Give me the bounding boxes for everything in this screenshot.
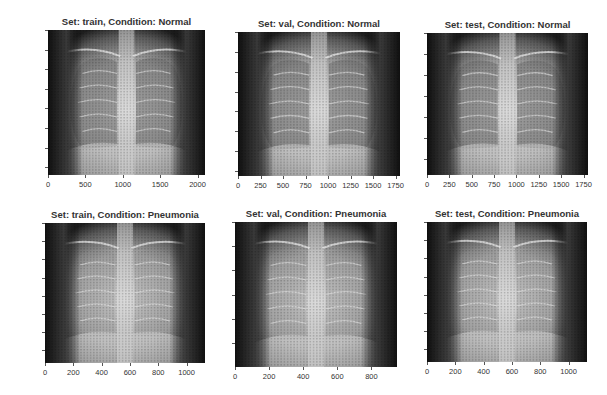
x-tick-mark (45, 363, 46, 366)
x-tick-label: 500 (79, 180, 92, 189)
subplot-title: Set: val, Condition: Pneumonia (246, 208, 386, 219)
x-tick-mark (396, 176, 397, 179)
y-tick-mark (424, 313, 427, 314)
x-tick-mark (198, 175, 199, 178)
x-tick-label: 750 (299, 181, 312, 190)
x-tick-label: 600 (506, 367, 519, 376)
x-tick-label: 1750 (387, 181, 404, 190)
x-tick-label: 400 (95, 368, 108, 377)
x-tick-mark (373, 176, 374, 179)
x-tick-mark (449, 175, 450, 178)
x-tick-mark (351, 176, 352, 179)
y-tick-mark (235, 92, 238, 93)
xray-image (48, 30, 205, 175)
y-tick-mark (42, 259, 45, 260)
x-tick-mark (427, 175, 428, 178)
x-tick-label: 1250 (342, 181, 359, 190)
y-tick-mark (424, 117, 427, 118)
x-tick-mark (561, 175, 562, 178)
x-tick-mark (283, 176, 284, 179)
x-tick-mark (261, 176, 262, 179)
x-tick-mark (102, 363, 103, 366)
x-tick-label: 250 (254, 181, 267, 190)
y-tick-mark (235, 111, 238, 112)
y-tick-mark (42, 223, 45, 224)
x-tick-label: 0 (236, 181, 240, 190)
y-tick-mark (42, 350, 45, 351)
subplot-title: Set: val, Condition: Normal (258, 18, 380, 29)
x-tick-mark (158, 363, 159, 366)
x-tick-label: 600 (331, 372, 344, 381)
y-tick-mark (42, 278, 45, 279)
x-tick-mark (85, 175, 86, 178)
x-tick-mark (306, 176, 307, 179)
x-tick-label: 1500 (553, 180, 570, 189)
x-tick-label: 2000 (189, 180, 206, 189)
y-tick-mark (424, 159, 427, 160)
x-tick-mark (569, 362, 570, 365)
y-tick-mark (45, 128, 48, 129)
x-tick-mark (512, 362, 513, 365)
x-tick-mark (48, 175, 49, 178)
y-tick-mark (424, 240, 427, 241)
y-tick-mark (42, 332, 45, 333)
x-tick-mark (455, 362, 456, 365)
x-tick-label: 1000 (114, 180, 131, 189)
y-tick-mark (45, 30, 48, 31)
x-tick-mark (238, 176, 239, 179)
y-tick-mark (45, 50, 48, 51)
x-tick-label: 800 (365, 372, 378, 381)
x-tick-label: 800 (152, 368, 165, 377)
x-tick-label: 0 (233, 372, 237, 381)
x-tick-label: 1000 (320, 181, 337, 190)
x-tick-mark (337, 367, 338, 370)
y-tick-mark (235, 171, 238, 172)
y-tick-mark (235, 151, 238, 152)
x-tick-mark (123, 175, 124, 178)
x-tick-mark (328, 176, 329, 179)
xray-graphic (238, 32, 400, 176)
y-tick-mark (42, 296, 45, 297)
y-tick-mark (424, 138, 427, 139)
x-tick-mark (427, 362, 428, 365)
y-tick-mark (424, 222, 427, 223)
x-tick-label: 200 (263, 372, 276, 381)
x-tick-mark (472, 175, 473, 178)
y-tick-mark (424, 277, 427, 278)
y-tick-mark (235, 72, 238, 73)
x-tick-label: 500 (465, 180, 478, 189)
x-tick-label: 1250 (530, 180, 547, 189)
xray-image (427, 33, 588, 175)
x-tick-mark (269, 367, 270, 370)
y-tick-mark (232, 246, 235, 247)
y-tick-mark (45, 108, 48, 109)
y-tick-mark (235, 52, 238, 53)
y-tick-mark (424, 33, 427, 34)
y-tick-mark (424, 54, 427, 55)
xray-graphic (45, 223, 205, 363)
xray-image (235, 222, 397, 367)
x-tick-label: 1500 (365, 181, 382, 190)
x-tick-mark (516, 175, 517, 178)
x-tick-label: 400 (297, 372, 310, 381)
x-tick-mark (235, 367, 236, 370)
x-tick-mark (494, 175, 495, 178)
subplot-title: Set: train, Condition: Pneumonia (51, 209, 199, 220)
y-tick-mark (424, 331, 427, 332)
x-tick-mark (303, 367, 304, 370)
x-tick-label: 0 (46, 180, 50, 189)
x-tick-label: 0 (425, 180, 429, 189)
y-tick-mark (232, 222, 235, 223)
y-tick-mark (424, 75, 427, 76)
x-tick-label: 200 (67, 368, 80, 377)
x-tick-label: 0 (43, 368, 47, 377)
y-tick-mark (42, 241, 45, 242)
x-tick-label: 1500 (152, 180, 169, 189)
y-tick-mark (424, 295, 427, 296)
xray-graphic (235, 222, 397, 367)
x-tick-label: 250 (443, 180, 456, 189)
y-tick-mark (45, 167, 48, 168)
subplot-title: Set: test, Condition: Normal (445, 19, 571, 30)
y-tick-mark (232, 295, 235, 296)
y-tick-mark (45, 148, 48, 149)
